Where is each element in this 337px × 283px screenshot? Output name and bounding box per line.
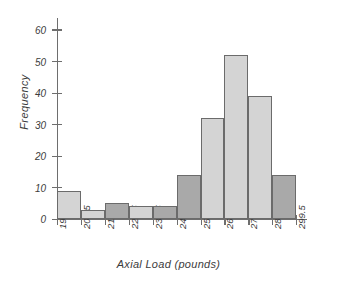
y-tick-label: 10 — [35, 182, 46, 193]
y-tick: 60 — [52, 29, 62, 30]
y-axis-title: Frequency — [18, 42, 30, 162]
histogram-bar — [177, 175, 201, 219]
x-axis-title: Axial Load (pounds) — [0, 258, 337, 270]
y-tick-label: 60 — [35, 25, 46, 36]
x-tick: 299.5 — [296, 215, 297, 225]
histogram-bar — [248, 96, 272, 219]
plot-area: 0102030405060 199.5209.5219.5229.5239.52… — [57, 18, 307, 220]
histogram-bar — [57, 191, 81, 219]
histogram-figure: Frequency 0102030405060 199.5209.5219.52… — [0, 0, 337, 283]
y-tick: 30 — [52, 124, 62, 125]
y-tick-label: 50 — [35, 56, 46, 67]
x-tick-label: 299.5 — [296, 205, 307, 229]
histogram-bar — [201, 118, 225, 219]
y-tick: 20 — [52, 156, 62, 157]
y-tick-label: 40 — [35, 88, 46, 99]
y-tick: 10 — [52, 187, 62, 188]
y-tick-label: 20 — [35, 151, 46, 162]
histogram-bar — [224, 55, 248, 219]
histogram-bar — [105, 203, 129, 219]
y-tick: 50 — [52, 61, 62, 62]
y-tick-label: 0 — [40, 214, 46, 225]
histogram-bar — [129, 206, 153, 219]
histogram-bar — [272, 175, 296, 219]
y-tick: 40 — [52, 93, 62, 94]
histogram-bar — [153, 206, 177, 219]
histogram-bar — [81, 210, 105, 219]
y-tick-label: 30 — [35, 119, 46, 130]
